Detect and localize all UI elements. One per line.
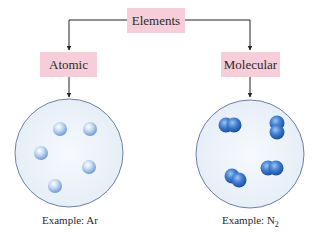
atom-icon bbox=[83, 122, 97, 136]
arrow-to-molecular bbox=[185, 20, 250, 50]
atom-icon bbox=[53, 122, 67, 136]
example-subscript: 2 bbox=[275, 220, 279, 229]
example-prefix: Example: bbox=[222, 214, 267, 226]
molecular-example-caption: Example: N2 bbox=[222, 214, 279, 226]
atomic-example-caption: Example: Ar bbox=[42, 214, 98, 226]
elements-label: Elements bbox=[132, 13, 180, 29]
atomic-label: Atomic bbox=[49, 57, 88, 73]
molecular-label: Molecular bbox=[224, 57, 277, 73]
molecular-box: Molecular bbox=[221, 52, 280, 77]
arrow-to-atomic bbox=[69, 20, 127, 50]
n2-molecule-icon bbox=[270, 116, 285, 140]
n2-molecule-icon bbox=[219, 118, 242, 133]
atomic-box: Atomic bbox=[40, 52, 97, 77]
example-formula: Ar bbox=[86, 214, 98, 226]
atomic-sample-container bbox=[15, 99, 123, 207]
n2-molecule-icon bbox=[261, 161, 284, 176]
example-prefix: Example: bbox=[42, 214, 86, 226]
molecular-sample-container bbox=[196, 100, 304, 208]
diagram-canvas bbox=[0, 0, 314, 237]
elements-box: Elements bbox=[127, 8, 185, 33]
atom-icon bbox=[34, 146, 48, 160]
atom-icon bbox=[82, 160, 96, 174]
example-formula: N bbox=[267, 214, 275, 226]
atom-icon bbox=[48, 179, 62, 193]
